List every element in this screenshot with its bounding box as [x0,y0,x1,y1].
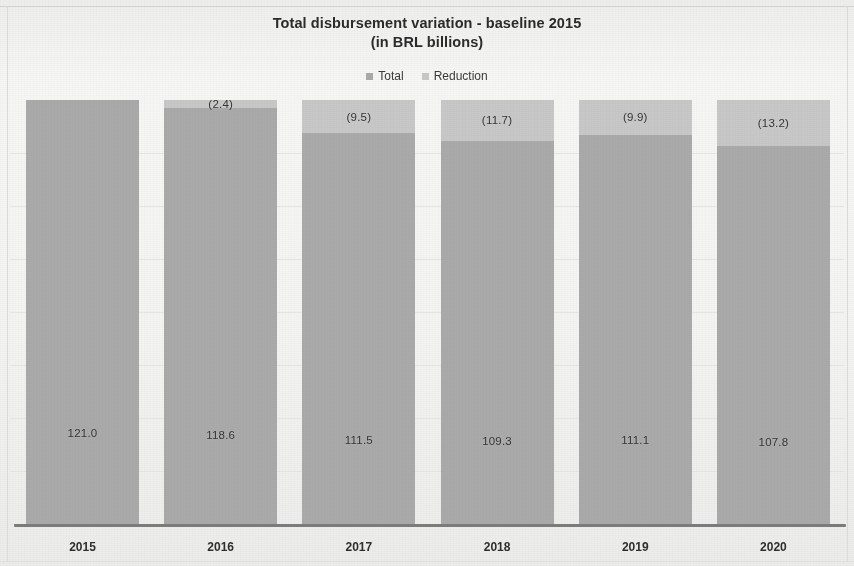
x-axis-tick-labels: 201520162017201820192020 [10,531,844,561]
chart-figure: Total disbursement variation - baseline … [0,0,854,566]
bar-group-2015[interactable]: 121.0 [26,100,139,524]
bar-group-2017[interactable]: (9.5)111.5 [302,100,415,524]
bar-segment-reduction-2016[interactable]: (2.4) [164,100,277,108]
x-axis-tick-2017: 2017 [302,531,415,561]
bar-segment-total-2018[interactable]: 109.3 [441,141,554,524]
x-axis-line [14,524,846,527]
x-axis-tick-2016: 2016 [164,531,277,561]
bar-segment-reduction-2017[interactable]: (9.5) [302,100,415,133]
bar-group-2016[interactable]: (2.4)118.6 [164,100,277,524]
bar-segment-reduction-2019[interactable]: (9.9) [579,100,692,135]
chart-legend: Total Reduction [0,70,854,82]
bar-series-container: 121.0(2.4)118.6(9.5)111.5(11.7)109.3(9.9… [10,100,844,524]
x-axis-tick-2020: 2020 [717,531,830,561]
bar-label-total-2015: 121.0 [68,427,98,439]
bar-segment-total-2019[interactable]: 111.1 [579,135,692,524]
bar-label-reduction-2020: (13.2) [758,117,789,129]
bar-segment-reduction-2018[interactable]: (11.7) [441,100,554,141]
x-axis-tick-2015: 2015 [26,531,139,561]
bar-group-2019[interactable]: (9.9)111.1 [579,100,692,524]
legend-item-total: Total [366,70,403,82]
bar-label-total-2017: 111.5 [345,434,373,446]
bar-segment-total-2015[interactable]: 121.0 [26,100,139,524]
bar-label-reduction-2019: (9.9) [623,111,648,123]
chart-title: Total disbursement variation - baseline … [0,14,854,33]
bar-group-2018[interactable]: (11.7)109.3 [441,100,554,524]
frame-right-border [847,6,848,562]
legend-item-reduction: Reduction [422,70,488,82]
bar-group-2020[interactable]: (13.2)107.8 [717,100,830,524]
legend-label-reduction: Reduction [434,70,488,82]
bar-segment-total-2016[interactable]: 118.6 [164,108,277,524]
bar-segment-reduction-2020[interactable]: (13.2) [717,100,830,146]
bar-label-total-2020: 107.8 [759,436,789,448]
frame-top-border [0,6,854,7]
bar-label-reduction-2016: (2.4) [208,98,233,110]
x-axis-tick-2018: 2018 [441,531,554,561]
bar-label-total-2019: 111.1 [621,434,649,446]
bar-segment-total-2020[interactable]: 107.8 [717,146,830,524]
legend-swatch-total-icon [366,73,373,80]
legend-label-total: Total [378,70,403,82]
bar-segment-total-2017[interactable]: 111.5 [302,133,415,524]
chart-subtitle: (in BRL billions) [0,33,854,52]
plot-area: 121.0(2.4)118.6(9.5)111.5(11.7)109.3(9.9… [10,100,844,524]
bar-label-total-2018: 109.3 [482,435,512,447]
chart-title-block: Total disbursement variation - baseline … [0,14,854,52]
bar-label-reduction-2017: (9.5) [347,111,372,123]
x-axis-tick-2019: 2019 [579,531,692,561]
frame-bottom-border [0,561,854,562]
frame-left-border [7,6,8,562]
bar-label-reduction-2018: (11.7) [482,114,512,126]
bar-label-total-2016: 118.6 [206,429,235,441]
legend-swatch-reduction-icon [422,73,429,80]
